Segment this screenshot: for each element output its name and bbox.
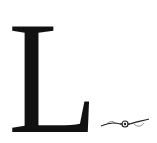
drop-cap-letter: L xyxy=(8,0,98,143)
floral-flourish-icon xyxy=(100,116,150,132)
